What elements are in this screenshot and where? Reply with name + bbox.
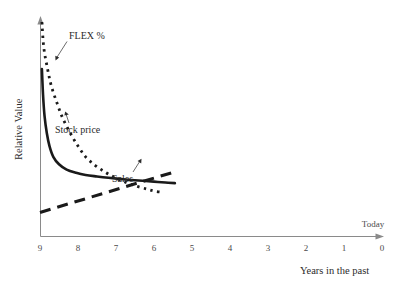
- x-axis: [41, 233, 385, 239]
- sales-leader-line: [133, 161, 140, 172]
- stock-price-leader-arrow-icon: [64, 112, 68, 116]
- x-tick-7: 7: [114, 243, 119, 253]
- y-axis-title: Relative Value: [13, 98, 24, 160]
- x-tick-3: 3: [266, 243, 271, 253]
- sales-label: Sales: [112, 173, 133, 184]
- x-axis-arrow-icon: [376, 233, 385, 239]
- relative-value-chart: 9 8 7 6 5 4 3 2 1 0 Today Relative Value…: [0, 0, 410, 294]
- flex-leader-line: [57, 42, 68, 59]
- x-tick-5: 5: [190, 243, 195, 253]
- x-tick-0: 0: [380, 243, 385, 253]
- x-tick-4: 4: [228, 243, 233, 253]
- y-axis: [37, 16, 43, 237]
- x-axis-title: Years in the past: [300, 265, 369, 276]
- chart-container: 9 8 7 6 5 4 3 2 1 0 Today Relative Value…: [0, 0, 410, 294]
- sales-leader-arrow-icon: [138, 159, 142, 164]
- flex-annotation: FLEX %: [55, 30, 105, 61]
- series-group: [40, 22, 175, 212]
- x-tick-1: 1: [342, 243, 347, 253]
- stock-price-leader-line: [66, 114, 69, 123]
- x-tick-6: 6: [152, 243, 157, 253]
- x-tick-labels: 9 8 7 6 5 4 3 2 1 0: [38, 243, 385, 253]
- x-tick-2: 2: [304, 243, 309, 253]
- x-tick-9: 9: [38, 243, 43, 253]
- flex-label: FLEX %: [69, 30, 105, 41]
- x-tick-8: 8: [76, 243, 81, 253]
- stock-price-label: Stock price: [55, 124, 101, 135]
- today-annotation: Today: [362, 219, 385, 229]
